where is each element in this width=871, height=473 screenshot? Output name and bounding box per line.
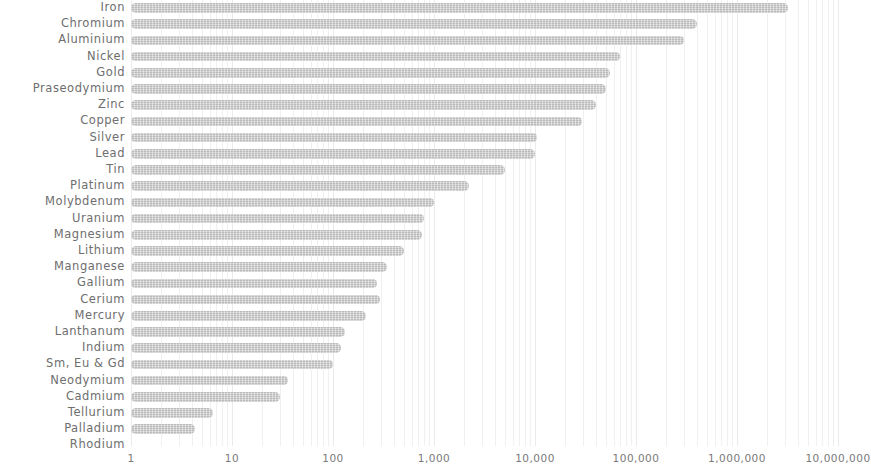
bar: [131, 343, 341, 353]
bar: [131, 424, 195, 434]
category-label: Uranium: [0, 211, 125, 227]
table-row: Cerium: [0, 292, 845, 308]
bar: [131, 214, 424, 224]
table-row: Manganese: [0, 259, 845, 275]
table-row: Mercury: [0, 308, 845, 324]
category-label: Lanthanum: [0, 324, 125, 340]
table-row: Indium: [0, 340, 845, 356]
bar: [131, 311, 366, 321]
x-tick-label: 100,000: [613, 452, 660, 464]
table-row: Palladium: [0, 421, 845, 437]
table-row: Gallium: [0, 275, 845, 291]
table-row: Molybdenum: [0, 194, 845, 210]
table-row: Lithium: [0, 243, 845, 259]
x-tick-label: 1,000,000: [708, 452, 766, 464]
table-row: Copper: [0, 113, 845, 129]
category-label: Lithium: [0, 243, 125, 259]
bar: [131, 52, 620, 62]
bar: [131, 165, 505, 175]
table-row: Silver: [0, 130, 845, 146]
table-row: Cadmium: [0, 389, 845, 405]
table-row: Uranium: [0, 211, 845, 227]
x-tick-label: 1,000: [418, 452, 451, 464]
x-tick-label: 10,000: [515, 452, 555, 464]
bar: [131, 181, 469, 191]
table-row: Neodymium: [0, 373, 845, 389]
category-label: Indium: [0, 340, 125, 356]
bar: [131, 84, 606, 94]
table-row: Nickel: [0, 49, 845, 65]
bar: [131, 68, 610, 78]
bar: [131, 19, 697, 29]
bar: [131, 360, 333, 370]
category-label: Chromium: [0, 16, 125, 32]
table-row: Lead: [0, 146, 845, 162]
bar: [131, 295, 380, 305]
category-label: Mercury: [0, 308, 125, 324]
bar: [131, 262, 387, 272]
table-row: Tellurium: [0, 405, 845, 421]
bar: [131, 392, 280, 402]
category-label: Tin: [0, 162, 125, 178]
category-label: Cadmium: [0, 389, 125, 405]
bar: [131, 3, 788, 13]
table-row: Magnesium: [0, 227, 845, 243]
table-row: Gold: [0, 65, 845, 81]
table-row: Iron: [0, 0, 845, 16]
bar-rows: IronChromiumAluminiumNickelGoldPraseodym…: [0, 0, 845, 446]
category-label: Cerium: [0, 292, 125, 308]
bar: [131, 198, 434, 208]
bar: [131, 279, 377, 289]
bar: [131, 133, 537, 143]
bar: [131, 408, 213, 418]
category-label: Magnesium: [0, 227, 125, 243]
category-label: Manganese: [0, 259, 125, 275]
category-label: Nickel: [0, 49, 125, 65]
x-tick-label: 10,000,000: [805, 452, 870, 464]
table-row: Sm, Eu & Gd: [0, 356, 845, 372]
bar: [131, 117, 582, 127]
table-row: Platinum: [0, 178, 845, 194]
category-label: Iron: [0, 0, 125, 16]
bar: [131, 327, 345, 337]
category-label: Neodymium: [0, 373, 125, 389]
table-row: Aluminium: [0, 32, 845, 48]
category-label: Gallium: [0, 275, 125, 291]
category-label: Praseodymium: [0, 81, 125, 97]
category-label: Tellurium: [0, 405, 125, 421]
bar: [131, 246, 404, 256]
x-axis: 1101001,00010,000100,0001,000,00010,000,…: [0, 446, 845, 473]
bar: [131, 36, 684, 46]
category-label: Aluminium: [0, 32, 125, 48]
category-label: Molybdenum: [0, 194, 125, 210]
bar: [131, 230, 422, 240]
bar: [131, 100, 596, 110]
category-label: Sm, Eu & Gd: [0, 356, 125, 372]
table-row: Chromium: [0, 16, 845, 32]
x-tick-label: 100: [322, 452, 344, 464]
table-row: Tin: [0, 162, 845, 178]
category-label: Lead: [0, 146, 125, 162]
category-label: Gold: [0, 65, 125, 81]
bar: [131, 149, 535, 159]
bar: [131, 376, 288, 386]
table-row: Lanthanum: [0, 324, 845, 340]
table-row: Praseodymium: [0, 81, 845, 97]
category-label: Copper: [0, 113, 125, 129]
x-tick-label: 10: [225, 452, 239, 464]
category-label: Zinc: [0, 97, 125, 113]
category-label: Palladium: [0, 421, 125, 437]
category-label: Platinum: [0, 178, 125, 194]
x-tick-label: 1: [127, 452, 134, 464]
table-row: Zinc: [0, 97, 845, 113]
category-label: Silver: [0, 130, 125, 146]
